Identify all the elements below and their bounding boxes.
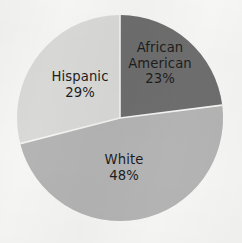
pie-label-african-american-line2: American <box>122 56 198 72</box>
pie-value-hispanic: 29% <box>42 85 118 101</box>
pie-label-hispanic: Hispanic 29% <box>42 69 118 100</box>
pie-chart-canvas <box>0 0 242 243</box>
pie-label-african-american: African American 23% <box>122 40 198 87</box>
pie-chart-figure: African American 23% Hispanic 29% White … <box>0 0 242 243</box>
pie-value-african-american: 23% <box>122 71 198 87</box>
pie-value-white: 48% <box>88 168 160 184</box>
pie-label-white: White 48% <box>88 152 160 183</box>
pie-label-white-line1: White <box>88 152 160 168</box>
pie-label-hispanic-line1: Hispanic <box>42 69 118 85</box>
pie-label-african-american-line1: African <box>122 40 198 56</box>
